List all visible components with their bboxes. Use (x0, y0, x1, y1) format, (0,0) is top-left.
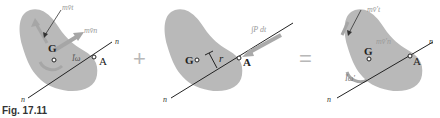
label-n-bottom: n (327, 96, 331, 104)
center-of-mass-point (367, 57, 371, 61)
label-g: G (48, 43, 57, 54)
rigid-body-shape (165, 9, 243, 91)
center-of-mass-point (195, 58, 199, 62)
label-iomega-prime: Īω' (345, 75, 355, 83)
rigid-body-shape (345, 9, 423, 91)
impulse-arrow (248, 35, 281, 53)
figure-caption: Fig. 17.11 (2, 106, 47, 116)
center-of-mass-point (52, 58, 56, 62)
panel-impulse (165, 9, 293, 98)
label-iomega: Īω (72, 55, 80, 63)
label-a: A (413, 56, 421, 67)
label-impulse: ∫P dt (251, 26, 266, 34)
point-a (92, 55, 96, 59)
label-g: G (364, 46, 373, 57)
label-a: A (243, 57, 251, 68)
label-r: r (219, 53, 223, 64)
point-a (408, 54, 412, 58)
label-n-top: n (429, 38, 433, 46)
plus-sign: + (133, 48, 146, 70)
label-mvt: mv̄t (62, 4, 74, 12)
label-mvn: mv̄n (84, 27, 97, 35)
label-mvn-prime: mv̄'n (376, 38, 391, 46)
label-n-bottom: n (163, 96, 167, 104)
point-a (237, 56, 241, 60)
equals-sign: = (299, 48, 312, 70)
label-n-top: n (115, 38, 119, 46)
panel-initial-momenta (20, 9, 112, 98)
label-a: A (99, 56, 107, 67)
label-mvt-prime: mv̄'t (367, 6, 380, 14)
label-n-bottom: n (21, 96, 25, 104)
panel-final-momenta (337, 9, 433, 98)
label-g: G (185, 55, 194, 66)
